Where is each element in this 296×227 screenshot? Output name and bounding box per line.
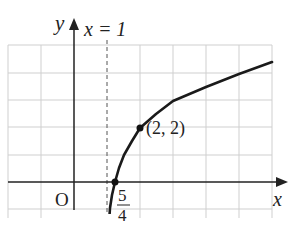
log-curve [108,62,272,227]
x-axis [8,177,288,187]
fraction-5-4: 5 4 [117,186,130,225]
origin-label: O [55,189,69,210]
svg-text:5: 5 [118,186,127,205]
point-2-2 [137,125,144,132]
y-axis-arrow-icon [69,18,79,30]
asymptote-label: x = 1 [83,18,126,40]
point-x-intercept [112,179,119,186]
x-axis-arrow-icon [276,177,288,187]
point-2-2-label: (2, 2) [146,118,185,139]
function-graph: y x = 1 O x (2, 2) 5 4 [0,0,296,227]
svg-text:4: 4 [118,206,127,225]
y-axis-label: y [53,11,65,35]
y-axis [69,18,79,210]
x-axis-label: x [272,188,282,210]
